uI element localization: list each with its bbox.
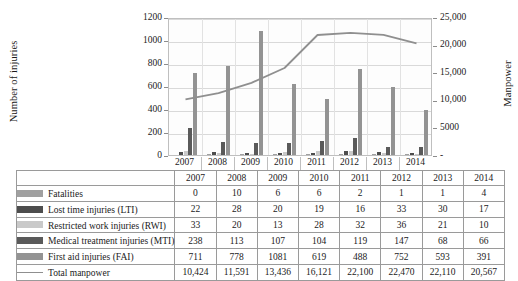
table-value-cell: 107 xyxy=(257,233,298,249)
manpower-line-path xyxy=(186,33,417,99)
legend-label-cell: Lost time injuries (LTI) xyxy=(17,201,175,217)
table-value-cell: 619 xyxy=(298,249,339,265)
total-manpower-line xyxy=(169,19,432,156)
table-value-cell: 68 xyxy=(422,233,463,249)
table-value-cell: 1081 xyxy=(257,249,298,265)
table-row: Lost time injuries (LTI)2228201916333017 xyxy=(17,201,505,217)
table-value-cell: 4 xyxy=(463,186,504,202)
table-value-cell: 238 xyxy=(175,233,216,249)
y-tick-label-right: 20,000 xyxy=(440,39,500,49)
legend-swatch-icon xyxy=(17,237,43,244)
table-value-cell: 22,470 xyxy=(381,265,422,281)
table-value-cell: 1 xyxy=(381,186,422,202)
table-value-cell: 711 xyxy=(175,249,216,265)
x-axis-label: 2009 xyxy=(234,157,267,167)
table-value-cell: 20 xyxy=(257,201,298,217)
x-tick-mark xyxy=(399,157,400,170)
table-value-cell: 20,567 xyxy=(463,265,504,281)
table-value-cell: 10,424 xyxy=(175,265,216,281)
legend-label-text: Restricted work injuries (RWI) xyxy=(48,220,166,230)
y-tick-mark-right xyxy=(433,101,437,102)
table-year-header: 2010 xyxy=(298,171,339,186)
x-axis-labels: 20072008200920102011201220132014 xyxy=(168,157,432,171)
legend-swatch-icon xyxy=(17,221,43,228)
x-axis-label: 2013 xyxy=(366,157,399,167)
table-value-cell: 33 xyxy=(381,201,422,217)
table-year-header: 2014 xyxy=(463,171,504,186)
table-value-cell: 147 xyxy=(381,233,422,249)
table-value-cell: 21 xyxy=(422,217,463,233)
table-value-cell: 778 xyxy=(216,249,257,265)
y-tick-label-right: 15,000 xyxy=(440,67,500,77)
table-value-cell: 32 xyxy=(340,217,381,233)
legend-label-cell: Medical treatment injuries (MTI) xyxy=(17,233,175,249)
y-tick-label-right: 5000 xyxy=(440,122,500,132)
y-tick-label-right: 10,000 xyxy=(440,94,500,104)
injury-statistics-chart: Number of injuries Manpower 020040060080… xyxy=(0,0,518,172)
x-axis-label: 2012 xyxy=(333,157,366,167)
table-value-cell: 6 xyxy=(298,186,339,202)
table-value-cell: 2 xyxy=(340,186,381,202)
x-tick-mark xyxy=(300,157,301,170)
table-year-header: 2008 xyxy=(216,171,257,186)
y-tick-mark-right xyxy=(433,128,437,129)
table-value-cell: 104 xyxy=(298,233,339,249)
table-value-cell: 36 xyxy=(381,217,422,233)
legend-swatch-icon xyxy=(17,206,43,213)
table-value-cell: 20 xyxy=(216,217,257,233)
table-value-cell: 6 xyxy=(257,186,298,202)
table-value-cell: 113 xyxy=(216,233,257,249)
x-axis-label: 2008 xyxy=(201,157,234,167)
table-value-cell: 22,100 xyxy=(340,265,381,281)
legend-label-text: Medical treatment injuries (MTI) xyxy=(48,236,174,246)
x-tick-mark xyxy=(333,157,334,170)
data-legend-table: 20072008200920102011201220132014Fataliti… xyxy=(16,170,505,281)
table-value-cell: 11,591 xyxy=(216,265,257,281)
table-row: Medical treatment injuries (MTI)23811310… xyxy=(17,233,505,249)
table-row: Fatalities010662114 xyxy=(17,186,505,202)
legend-label-cell: Total manpower xyxy=(17,265,175,281)
table-value-cell: 10 xyxy=(216,186,257,202)
table-value-cell: 28 xyxy=(216,201,257,217)
x-tick-mark xyxy=(234,157,235,170)
legend-label-cell: First aid injuries (FAI) xyxy=(17,249,175,265)
plot-area xyxy=(168,18,432,156)
legend-label-text: First aid injuries (FAI) xyxy=(48,252,134,262)
table-value-cell: 10 xyxy=(463,217,504,233)
y-tick-mark-right xyxy=(433,18,437,19)
legend-swatch-icon xyxy=(17,253,43,260)
table-value-cell: 66 xyxy=(463,233,504,249)
table-value-cell: 22,110 xyxy=(422,265,463,281)
table-value-cell: 119 xyxy=(340,233,381,249)
x-axis-label: 2010 xyxy=(267,157,300,167)
table-value-cell: 1 xyxy=(422,186,463,202)
table-header-row: 20072008200920102011201220132014 xyxy=(17,171,505,186)
legend-swatch-icon xyxy=(17,190,43,197)
table-year-header: 2007 xyxy=(175,171,216,186)
table-value-cell: 13 xyxy=(257,217,298,233)
x-tick-mark xyxy=(201,157,202,170)
table-value-cell: 22 xyxy=(175,201,216,217)
table-value-cell: 16 xyxy=(340,201,381,217)
table-year-header: 2011 xyxy=(340,171,381,186)
table-year-header: 2012 xyxy=(381,171,422,186)
table-year-header: 2009 xyxy=(257,171,298,186)
table-year-header: 2013 xyxy=(422,171,463,186)
x-axis-label: 2007 xyxy=(168,157,201,167)
y-tick-mark-right xyxy=(433,46,437,47)
legend-label-text: Total manpower xyxy=(48,268,110,278)
legend-label-text: Fatalities xyxy=(48,189,83,199)
table-value-cell: 13,436 xyxy=(257,265,298,281)
y-tick-mark-right xyxy=(433,156,437,157)
table-value-cell: 17 xyxy=(463,201,504,217)
y-tick-label-right: - xyxy=(440,150,500,160)
table-value-cell: 33 xyxy=(175,217,216,233)
x-axis-label: 2014 xyxy=(399,157,432,167)
table-value-cell: 28 xyxy=(298,217,339,233)
legend-label-cell: Fatalities xyxy=(17,186,175,202)
table-value-cell: 19 xyxy=(298,201,339,217)
legend-label-text: Lost time injuries (LTI) xyxy=(48,205,138,215)
table-value-cell: 0 xyxy=(175,186,216,202)
x-tick-mark xyxy=(366,157,367,170)
x-tick-mark xyxy=(267,157,268,170)
